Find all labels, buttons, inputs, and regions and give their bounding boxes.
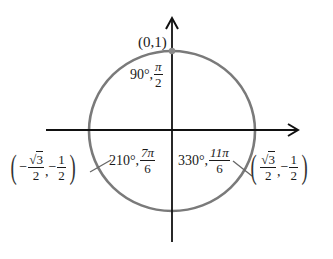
open-paren: ( [11, 150, 17, 184]
coord-label-210: ( − √3 2 , − 1 2 ) [8, 150, 78, 184]
denominator: 6 [144, 161, 151, 175]
y-sign: − [48, 160, 56, 174]
x-denominator: 2 [33, 168, 40, 182]
comma: , [205, 154, 209, 168]
open-paren: ( [251, 150, 257, 184]
numerator: 11π [209, 146, 230, 161]
y-denominator: 2 [58, 168, 65, 182]
radicand: 3 [268, 151, 275, 167]
close-paren: ) [69, 150, 75, 184]
comma: , [136, 154, 140, 168]
denominator: 6 [216, 161, 223, 175]
y-denominator: 2 [290, 168, 297, 182]
x-numerator: √3 [260, 153, 276, 168]
radicand: 3 [36, 151, 43, 167]
coord-label-90: (0,1) [138, 35, 167, 50]
angle-radians: 11π 6 [209, 146, 230, 175]
angle-degrees: 330° [178, 154, 205, 168]
coord-label-330: ( √3 2 , − 1 2 ) [248, 150, 310, 184]
y-numerator: 1 [289, 153, 298, 168]
unit-circle-diagram: (0,1) 90° , π 2 210° , 7π 6 330° , 11π 6… [0, 0, 333, 259]
angle-label-90: 90° , π 2 [130, 60, 164, 89]
denominator: 2 [155, 75, 162, 89]
x-numerator: √3 [28, 153, 44, 168]
angle-degrees: 210° [109, 154, 136, 168]
x-fraction: √3 2 [28, 153, 44, 182]
numerator: π [154, 60, 163, 75]
angle-label-210: 210° , 7π 6 [109, 146, 156, 175]
numerator: 7π [140, 146, 155, 161]
angle-label-330: 330° , 11π 6 [178, 146, 231, 175]
y-numerator: 1 [57, 153, 66, 168]
coord-text: (0,1) [138, 35, 167, 50]
angle-radians: 7π 6 [140, 146, 155, 175]
x-denominator: 2 [265, 168, 272, 182]
close-paren: ) [301, 150, 307, 184]
point-90 [169, 48, 175, 54]
x-fraction: √3 2 [260, 153, 276, 182]
y-fraction: 1 2 [57, 153, 66, 182]
angle-degrees: 90° [130, 68, 150, 82]
y-fraction: 1 2 [289, 153, 298, 182]
x-sign: − [19, 160, 27, 174]
angle-radians: π 2 [154, 60, 163, 89]
comma: , [150, 68, 154, 82]
y-sign: − [280, 160, 288, 174]
